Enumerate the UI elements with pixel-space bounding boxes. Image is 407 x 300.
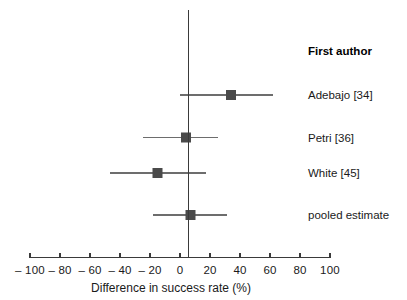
x-tick-label--80: – 80 — [48, 264, 71, 276]
x-axis-title: Difference in success rate (%) — [91, 281, 251, 295]
x-tick-label-100: 100 — [320, 264, 340, 276]
x-tick-label--100: – 100 — [15, 264, 45, 276]
row-label-petri: Petri [36] — [308, 132, 354, 144]
x-tick-label-20: 20 — [203, 264, 216, 276]
forest-row — [153, 210, 227, 220]
row-label-pooled: pooled estimate — [308, 209, 389, 221]
estimate-marker — [153, 168, 163, 178]
x-tick-label-60: 60 — [263, 264, 276, 276]
plot-rows — [110, 90, 274, 220]
x-axis-tick-labels: – 100– 80– 60– 40– 20020406080100 — [15, 264, 340, 276]
x-tick-label-80: 80 — [293, 264, 306, 276]
x-tick-label--60: – 60 — [78, 264, 101, 276]
x-tick-label-40: 40 — [233, 264, 246, 276]
x-tick-label--20: – 20 — [138, 264, 161, 276]
forest-row — [180, 90, 273, 100]
forest-row — [110, 168, 206, 178]
estimate-marker — [226, 90, 236, 100]
row-label-adebajo: Adebajo [34] — [308, 89, 373, 101]
x-tick-label-0: 0 — [177, 264, 184, 276]
row-label-white: White [45] — [308, 167, 360, 179]
x-axis-ticks — [30, 253, 330, 258]
estimate-marker — [181, 133, 191, 143]
column-header-first-author: First author — [308, 45, 372, 57]
x-tick-label--40: – 40 — [108, 264, 131, 276]
row-labels: Adebajo [34]Petri [36]White [45]pooled e… — [308, 89, 389, 221]
estimate-marker — [186, 210, 196, 220]
forest-row — [143, 133, 218, 143]
forest-plot: – 100– 80– 60– 40– 20020406080100 Differ… — [0, 0, 407, 300]
